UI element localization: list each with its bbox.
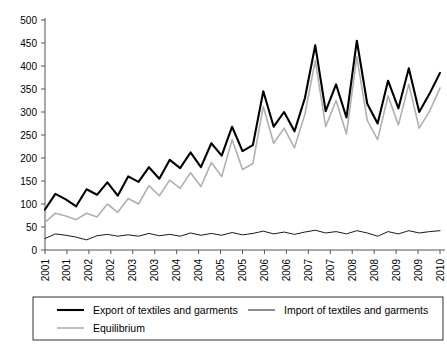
x-axis-tick-labels: 2001200120022002200320032004200420052005…	[40, 259, 446, 282]
y-tick-label: 500	[20, 15, 37, 26]
y-tick-label: 250	[20, 130, 37, 141]
x-tick-label: 2008	[369, 259, 380, 282]
x-tick-label: 2002	[83, 259, 94, 282]
legend-label: Export of textiles and garments	[93, 304, 238, 316]
series-line-equilibrium	[45, 57, 440, 223]
x-tick-label: 2004	[193, 259, 204, 282]
x-axis-ticks	[45, 250, 440, 254]
legend-box: Export of textiles and garmentsImport of…	[33, 297, 443, 340]
series-line-import-of-textiles-and-garments	[45, 230, 440, 240]
y-tick-label: 200	[20, 153, 37, 164]
data-series-group	[45, 41, 440, 240]
chart-container: 050100150200250300350400450500 200120012…	[0, 0, 447, 351]
y-tick-label: 400	[20, 61, 37, 72]
x-tick-label: 2006	[259, 259, 270, 282]
x-tick-label: 2001	[40, 259, 51, 282]
x-tick-label: 2004	[171, 259, 182, 282]
x-tick-label: 2005	[237, 259, 248, 282]
x-tick-label: 2008	[347, 259, 358, 282]
legend-label: Equilibrium	[93, 322, 145, 334]
line-chart: 050100150200250300350400450500 200120012…	[0, 0, 447, 351]
y-axis-group: 050100150200250300350400450500	[20, 15, 45, 256]
x-tick-label: 2003	[127, 259, 138, 282]
legend-label: Import of textiles and garments	[284, 304, 428, 316]
x-tick-label: 2005	[215, 259, 226, 282]
y-tick-label: 350	[20, 84, 37, 95]
y-tick-label: 100	[20, 199, 37, 210]
y-tick-label: 300	[20, 107, 37, 118]
x-tick-label: 2009	[413, 259, 424, 282]
y-axis-tick-labels: 050100150200250300350400450500	[20, 15, 37, 256]
y-tick-label: 0	[31, 245, 37, 256]
x-tick-label: 2001	[61, 259, 72, 282]
x-tick-label: 2009	[391, 259, 402, 282]
y-tick-label: 150	[20, 176, 37, 187]
y-tick-label: 50	[26, 222, 38, 233]
x-tick-label: 2003	[149, 259, 160, 282]
x-tick-label: 2010	[435, 259, 446, 282]
x-tick-label: 2007	[325, 259, 336, 282]
y-axis-ticks	[41, 20, 45, 250]
x-axis-group: 2001200120022002200320032004200420052005…	[40, 250, 446, 281]
x-tick-label: 2007	[303, 259, 314, 282]
x-tick-label: 2006	[281, 259, 292, 282]
y-tick-label: 450	[20, 38, 37, 49]
x-tick-label: 2002	[105, 259, 116, 282]
